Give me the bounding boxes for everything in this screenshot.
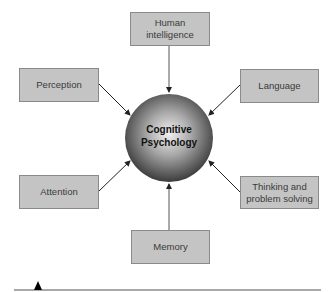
arrow-language: [209, 85, 240, 115]
arrow-perception: [99, 84, 130, 115]
node-attention: Attention: [19, 175, 99, 209]
arrow-attention: [99, 161, 130, 191]
node-thinking-problem-solving: Thinking andproblem solving: [240, 176, 319, 209]
node-label: problem solving: [246, 193, 313, 205]
node-label: Memory: [153, 241, 187, 253]
node-language: Language: [240, 69, 319, 103]
center-label-line1: Cognitive: [125, 123, 213, 136]
node-label: Human: [146, 17, 194, 29]
arrow-thinking: [209, 161, 240, 192]
node-label: Attention: [40, 186, 78, 198]
triangle-marker-icon: [34, 281, 42, 290]
node-label: Thinking and: [246, 181, 313, 193]
node-label: Perception: [36, 79, 81, 91]
node-perception: Perception: [19, 68, 99, 102]
node-memory: Memory: [131, 230, 210, 264]
node-label: Language: [258, 80, 300, 92]
node-human-intelligence: Humanintelligence: [130, 12, 210, 46]
node-label: intelligence: [146, 29, 194, 41]
center-label: Cognitive Psychology: [125, 123, 213, 149]
center-label-line2: Psychology: [125, 136, 213, 149]
